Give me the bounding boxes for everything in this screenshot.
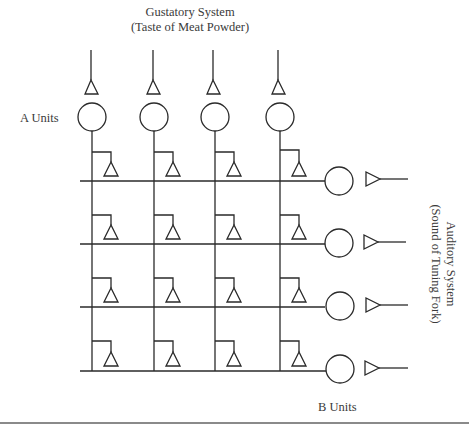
synapse-row-2 (92, 215, 306, 239)
conditioning-network-diagram (0, 0, 469, 427)
b-unit-circle-icon (325, 167, 353, 195)
synapse-triangle-icon (364, 235, 378, 249)
bottom-rule (0, 422, 469, 424)
a-unit-3 (201, 50, 229, 131)
network-lines (78, 50, 408, 383)
b-unit-2 (325, 229, 406, 257)
a-unit-1 (78, 50, 106, 131)
synapse-triangle-icon (366, 298, 380, 312)
a-unit-2 (140, 50, 168, 131)
b-unit-circle-icon (326, 292, 354, 320)
a-unit-circle-icon (78, 103, 106, 131)
a-unit-circle-icon (201, 103, 229, 131)
synapse-triangle-icon (207, 80, 220, 94)
a-unit-4 (266, 50, 294, 131)
synapse-triangle-icon (272, 80, 285, 94)
synapse-triangle-icon (365, 361, 379, 375)
synapse-row-3 (92, 278, 306, 302)
a-unit-circle-icon (266, 103, 294, 131)
synapse-triangle-icon (147, 80, 160, 94)
b-unit-circle-icon (326, 355, 354, 383)
a-unit-circle-icon (140, 103, 168, 131)
b-unit-circle-icon (325, 229, 353, 257)
synapse-triangle-icon (366, 172, 380, 186)
b-unit-4 (326, 355, 408, 383)
synapse-row-1 (92, 150, 306, 176)
synapse-triangle-icon (85, 80, 98, 94)
b-unit-3 (326, 292, 408, 320)
b-unit-1 (325, 167, 408, 195)
synapse-row-4 (92, 341, 306, 366)
